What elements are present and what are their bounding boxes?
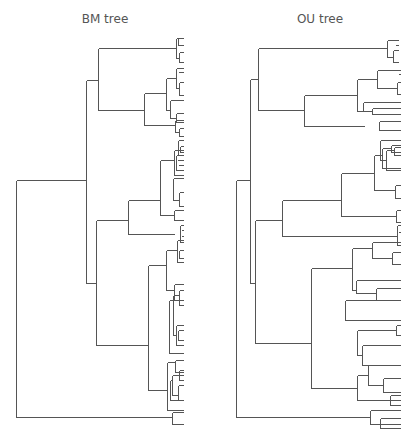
ou-tree-branches [237,41,401,429]
phylogeny-canvas [0,0,420,434]
bm-tree-branches [17,39,184,425]
